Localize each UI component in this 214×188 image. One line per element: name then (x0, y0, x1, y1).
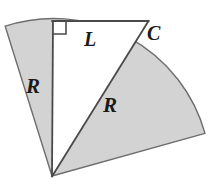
label-point-c: C (147, 23, 160, 43)
label-radius-left: R (26, 76, 40, 97)
vertical-leg-R (52, 21, 53, 176)
geometry-figure: R L C R (0, 0, 214, 188)
label-chord-top: L (84, 29, 96, 49)
label-radius-hypotenuse: R (103, 95, 117, 116)
